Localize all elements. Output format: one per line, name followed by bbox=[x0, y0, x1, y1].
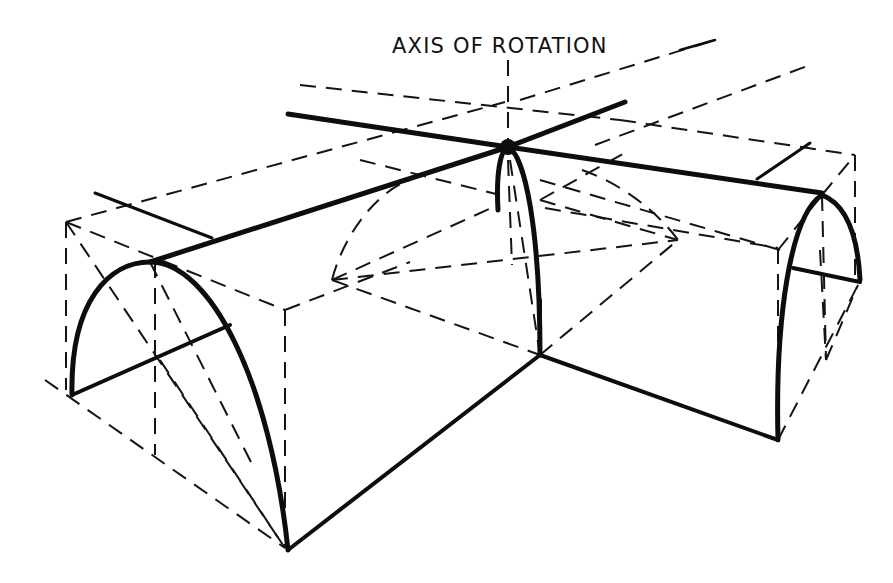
central-groin-arch bbox=[497, 147, 540, 355]
left-floor-diagonal bbox=[45, 380, 285, 548]
dome-cross-3 bbox=[332, 280, 540, 355]
dome-curve-left bbox=[332, 180, 410, 280]
ridge-left-barrel bbox=[150, 147, 508, 262]
left-box-top-front bbox=[285, 262, 410, 310]
axis-of-rotation-label: AXIS OF ROTATION bbox=[392, 34, 608, 58]
right-top-tick bbox=[757, 143, 810, 179]
left-top-tick bbox=[95, 193, 212, 238]
left-floor-diagonal-2 bbox=[160, 360, 285, 548]
cross-ridge-back bbox=[288, 114, 508, 147]
centre-to-right-diag bbox=[540, 180, 780, 250]
right-barrel-arch-front bbox=[778, 195, 822, 440]
groin-vault-diagram bbox=[0, 0, 893, 583]
right-box-side-top bbox=[545, 208, 778, 248]
right-box-top-front bbox=[822, 155, 855, 195]
bottom-edge-right bbox=[540, 355, 778, 440]
bottom-edge-left bbox=[288, 355, 540, 550]
dome-cross-1 bbox=[332, 205, 498, 280]
dome-cross-2 bbox=[332, 240, 678, 280]
dome-vertical-inner bbox=[508, 160, 512, 265]
right-barrel-springline bbox=[793, 268, 860, 282]
left-box-top-back bbox=[66, 102, 505, 222]
axis-arrow-icon bbox=[680, 40, 715, 50]
vault-edges-layer bbox=[72, 102, 860, 550]
left-barrel-arch bbox=[72, 262, 288, 550]
top-plane-far-1 bbox=[300, 85, 620, 120]
top-plane-far-2 bbox=[620, 120, 855, 155]
dome-cross-4 bbox=[540, 240, 678, 355]
construction-lines-layer bbox=[45, 40, 858, 548]
ridge-right-barrel bbox=[508, 147, 822, 193]
right-box-bottom-diag bbox=[778, 285, 858, 440]
left-box-top-side bbox=[66, 222, 285, 310]
left-barrel-springline bbox=[72, 325, 230, 395]
apex-junction-point bbox=[500, 139, 516, 155]
dome-curve-right bbox=[582, 170, 678, 240]
